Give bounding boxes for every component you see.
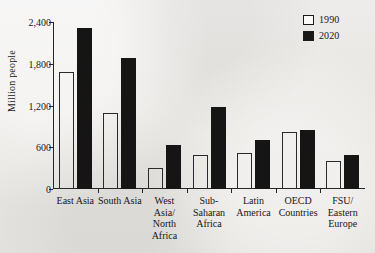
bar-2020[interactable] [344, 155, 359, 189]
bar-1990[interactable] [193, 155, 208, 189]
bar-2020[interactable] [255, 140, 270, 189]
bar-1990[interactable] [326, 161, 341, 189]
x-axis-category-label: FSU/ Eastern Europe [320, 195, 365, 230]
bar-1990[interactable] [103, 113, 118, 189]
x-axis-tick [187, 189, 188, 193]
y-axis-tick-label: 1,800 [5, 58, 51, 69]
y-axis-tick-label: 600 [5, 142, 51, 153]
x-axis-category-label: Latin America [231, 195, 276, 218]
x-axis-tick [320, 189, 321, 193]
y-axis-line [53, 22, 54, 189]
x-axis-line [53, 188, 365, 189]
bar-2020[interactable] [166, 145, 181, 189]
bar-1990[interactable] [148, 168, 163, 189]
plot-area [53, 22, 365, 189]
x-axis-category-label: Sub- Saharan Africa [187, 195, 232, 230]
y-axis-tick-label: 1,200 [5, 100, 51, 111]
x-axis-tick [98, 189, 99, 193]
x-axis-category-label: OECD Countries [276, 195, 321, 218]
x-axis-tick [142, 189, 143, 193]
x-axis-tick [231, 189, 232, 193]
bar-1990[interactable] [282, 132, 297, 189]
y-axis-tick-label: 0 [5, 184, 51, 195]
x-axis-category-label: West Asia/ North Africa [142, 195, 187, 241]
bar-1990[interactable] [237, 153, 252, 189]
bar-2020[interactable] [300, 130, 315, 189]
x-axis-category-label: South Asia [98, 195, 143, 207]
bar-2020[interactable] [211, 107, 226, 189]
bar-2020[interactable] [77, 28, 92, 189]
y-axis-tick-label: 2,400 [5, 17, 51, 28]
grouped-bar-chart: Million people 1990 2020 06001,2001,8002… [0, 0, 375, 253]
bar-1990[interactable] [59, 72, 74, 189]
x-axis-category-label: East Asia [53, 195, 98, 207]
x-axis-tick [276, 189, 277, 193]
bar-2020[interactable] [121, 58, 136, 189]
